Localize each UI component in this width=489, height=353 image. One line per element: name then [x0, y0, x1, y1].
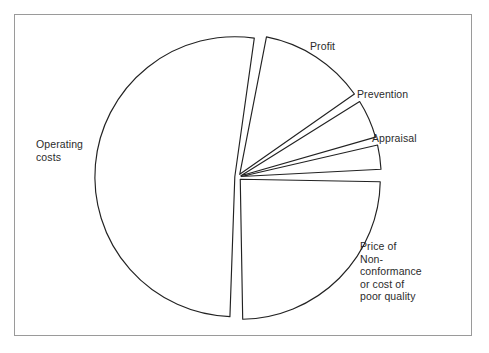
pie-label-operating-costs: Operating costs [36, 138, 83, 163]
pie-chart-figure: Operating costs Profit Prevention Apprai… [0, 0, 489, 353]
pie-label-profit: Profit [310, 40, 335, 53]
pie-wedge-group [95, 37, 381, 320]
pie-label-appraisal: Appraisal [372, 132, 417, 145]
pie-label-price-of-nonconformance: Price of Non- conformance or cost of poo… [360, 240, 422, 303]
pie-slice-operating-costs [95, 37, 254, 317]
pie-label-prevention: Prevention [357, 88, 408, 101]
